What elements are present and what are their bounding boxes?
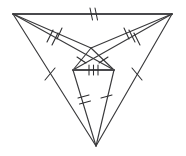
segment-inner-left-to-bottom: [73, 70, 96, 146]
segment-right-to-inner-top: [91, 14, 172, 48]
tick-inner-top-to-inner-left: [77, 57, 86, 63]
segment-inner-top-to-inner-left: [73, 48, 91, 70]
tick-inner-left-to-bottom: [78, 95, 91, 104]
segment-left-to-bottom: [13, 14, 96, 146]
tick-inner-top-to-inner-right: [99, 57, 108, 63]
geometry-diagram: [0, 0, 186, 156]
geometry-canvas: [0, 0, 186, 156]
segment-inner-right-to-bottom: [96, 70, 114, 146]
segment-left-to-inner-right: [13, 14, 114, 70]
segment-right-to-inner-left: [73, 14, 172, 70]
tick-inner-right-to-bottom: [101, 95, 112, 98]
